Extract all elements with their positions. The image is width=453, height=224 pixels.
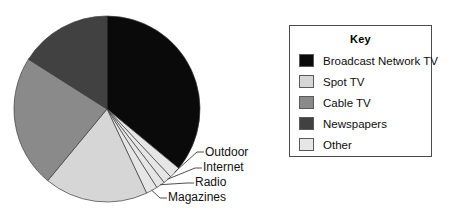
- callout-label-outdoor: Outdoor: [205, 146, 248, 159]
- callout-label-internet: Internet: [203, 161, 244, 174]
- pie-chart-figure: Outdoor Internet Radio Magazines Key Bro…: [0, 0, 453, 224]
- legend-item-label: Newspapers: [323, 118, 387, 130]
- legend-item-label: Spot TV: [323, 76, 364, 88]
- legend-item: Other: [290, 134, 431, 155]
- pie-slice-group: [14, 16, 200, 202]
- legend-item-label: Cable TV: [323, 97, 371, 109]
- legend-item: Newspapers: [290, 113, 431, 134]
- legend-swatch: [299, 138, 314, 151]
- legend-rows: Broadcast Network TVSpot TVCable TVNewsp…: [290, 50, 431, 155]
- legend-title: Key: [290, 33, 431, 45]
- legend-swatch: [299, 75, 314, 88]
- legend: Key Broadcast Network TVSpot TVCable TVN…: [289, 25, 432, 157]
- legend-swatch: [299, 96, 314, 109]
- legend-item-label: Broadcast Network TV: [323, 55, 438, 67]
- callout-label-radio: Radio: [195, 176, 226, 189]
- callout-label-magazines: Magazines: [168, 191, 226, 204]
- legend-item: Cable TV: [290, 92, 431, 113]
- legend-item: Spot TV: [290, 71, 431, 92]
- legend-swatch: [299, 117, 314, 130]
- legend-item: Broadcast Network TV: [290, 50, 431, 71]
- callout-leader-line: [152, 190, 167, 198]
- legend-item-label: Other: [323, 139, 352, 151]
- callout-leader-line: [160, 183, 194, 185]
- legend-swatch: [299, 54, 314, 67]
